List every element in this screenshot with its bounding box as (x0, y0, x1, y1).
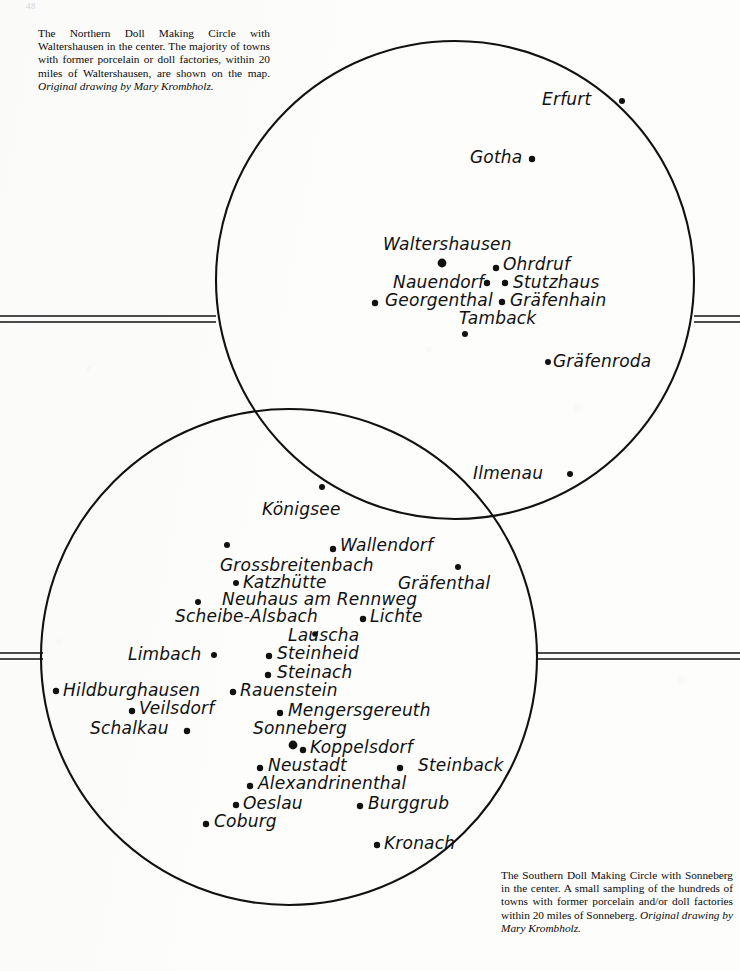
town-label-steinback: Steinback (418, 755, 504, 775)
town-dot-k-nigsee (319, 484, 325, 490)
town-dot-gr-fenhain (499, 299, 505, 305)
town-label-k-nigsee: Königsee (262, 499, 341, 519)
town-dot-alexandrinenthal (247, 783, 253, 789)
town-label-schalkau: Schalkau (90, 718, 169, 738)
town-label-gotha: Gotha (470, 147, 522, 167)
town-dot-nauendorf (484, 280, 490, 286)
map-drawing (0, 0, 740, 971)
town-dot-erfurt (619, 98, 625, 104)
town-label-steinach: Steinach (277, 662, 353, 682)
page-root: 48 ErfurtGothaWaltershausenOhrdrufNauend… (0, 0, 740, 971)
town-dot-ilmenau (567, 471, 573, 477)
town-dot-mengersgereuth (277, 710, 283, 716)
town-label-mengersgereuth: Mengersgereuth (288, 700, 431, 720)
town-label-koppelsdorf: Koppelsdorf (310, 737, 413, 757)
town-dot-katzh-tte (233, 580, 239, 586)
caption-north-body: The Northern Doll Making Circle with Wal… (38, 27, 270, 79)
town-label-neustadt: Neustadt (268, 755, 347, 775)
town-label-oeslau: Oeslau (243, 793, 303, 813)
town-dot-oeslau (233, 802, 239, 808)
town-label-lichte: Lichte (370, 606, 423, 626)
town-dot-ohrdruf (493, 265, 499, 271)
town-dot-schalkau (184, 728, 190, 734)
town-label-steinheid: Steinheid (277, 643, 359, 663)
town-dot-veilsdorf (129, 708, 135, 714)
town-dot-hildburghausen (53, 688, 59, 694)
town-label-alexandrinenthal: Alexandrinenthal (258, 773, 406, 793)
town-dot-gotha (529, 156, 535, 162)
town-dot-steinheid (266, 653, 272, 659)
town-dot-koppelsdorf (300, 747, 306, 753)
town-label-veilsdorf: Veilsdorf (139, 698, 214, 718)
town-label-gr-fenroda: Gräfenroda (553, 351, 651, 371)
town-label-georgenthal: Georgenthal (385, 290, 493, 310)
town-dot-neuhaus-am-rennweg (195, 599, 201, 605)
town-dot-burggrub (357, 803, 363, 809)
town-dot-gr-fenthal (455, 564, 461, 570)
town-label-kronach: Kronach (384, 833, 455, 853)
town-label-coburg: Coburg (214, 811, 277, 831)
town-label-burggrub: Burggrub (368, 793, 449, 813)
town-label-hildburghausen: Hildburghausen (63, 680, 200, 700)
town-dot-scheibe-alsbach (360, 616, 366, 622)
town-label-rauenstein: Rauenstein (240, 680, 338, 700)
town-label-ilmenau: Ilmenau (473, 463, 543, 483)
town-label-lauscha: Lauscha (288, 625, 359, 645)
town-dot-grossbreitenbach (224, 542, 230, 548)
town-label-waltershausen: Waltershausen (383, 234, 512, 254)
town-dot-wallendorf (330, 546, 336, 552)
town-label-limbach: Limbach (128, 644, 201, 664)
town-label-stutzhaus: Stutzhaus (513, 272, 599, 292)
caption-northern-circle: The Northern Doll Making Circle with Wal… (38, 27, 270, 93)
town-label-erfurt: Erfurt (542, 89, 591, 109)
caption-southern-circle: The Southern Doll Making Circle with Son… (501, 869, 733, 935)
town-dot-neustadt (257, 765, 263, 771)
town-dot-steinback (397, 765, 403, 771)
town-label-tamback: Tamback (459, 308, 536, 328)
town-label-nauendorf: Nauendorf (393, 272, 484, 292)
town-label-sonneberg: Sonneberg (253, 718, 347, 738)
town-dot-kronach (374, 842, 380, 848)
town-dot-georgenthal (372, 300, 378, 306)
town-dot-waltershausen (438, 259, 447, 268)
town-label-ohrdruf: Ohrdruf (503, 254, 570, 274)
town-dot-sonneberg (289, 741, 298, 750)
town-label-scheibe-alsbach: Scheibe-Alsbach (175, 606, 318, 626)
town-dot-gr-fenroda (545, 359, 551, 365)
town-dot-rauenstein (230, 689, 236, 695)
town-dot-coburg (203, 821, 209, 827)
town-dot-tamback (462, 331, 468, 337)
caption-north-credit: Original drawing by Mary Krombholz. (38, 80, 214, 92)
town-label-gr-fenhain: Gräfenhain (510, 290, 607, 310)
town-label-wallendorf: Wallendorf (340, 535, 433, 555)
town-dot-stutzhaus (502, 280, 508, 286)
town-dot-limbach (211, 652, 217, 658)
town-dot-steinach (265, 672, 271, 678)
